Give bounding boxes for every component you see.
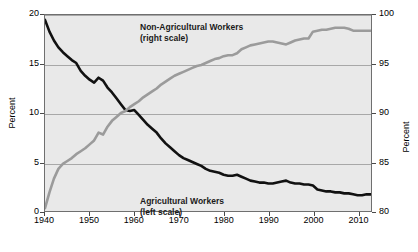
x-tick-mark bbox=[269, 212, 270, 216]
annotation-nonag-line1: Non-Agricultural Workers bbox=[140, 22, 243, 33]
annotation-ag-line1: Agricultural Workers bbox=[140, 196, 224, 207]
annotation-ag-line2: (left scale) bbox=[140, 207, 224, 218]
y-tick-label-right: 90 bbox=[379, 108, 409, 117]
annotation-non-agricultural-workers: Non-Agricultural Workers (right scale) bbox=[140, 22, 243, 44]
series-line-agricultural-workers bbox=[45, 20, 371, 195]
y-tick-label-left: 5 bbox=[9, 158, 39, 167]
y-tick-label-right: 100 bbox=[379, 9, 409, 18]
series-line-non-agricultural-workers bbox=[45, 28, 371, 208]
y-tick-label-left: 15 bbox=[9, 59, 39, 68]
y-tick-mark-right bbox=[372, 64, 376, 65]
y-tick-mark-right bbox=[372, 14, 376, 15]
y-tick-mark-right bbox=[372, 163, 376, 164]
y-tick-label-right: 80 bbox=[379, 207, 409, 216]
x-tick-mark bbox=[44, 212, 45, 216]
x-tick-label: 2010 bbox=[339, 216, 379, 225]
chart-container: Percent Percent 051015208085909510019401… bbox=[0, 0, 418, 252]
annotation-nonag-line2: (right scale) bbox=[140, 33, 243, 44]
x-tick-mark bbox=[359, 212, 360, 216]
y-tick-label-left: 10 bbox=[9, 108, 39, 117]
y-tick-label-left: 20 bbox=[9, 9, 39, 18]
y-tick-label-right: 85 bbox=[379, 158, 409, 167]
y-tick-mark-right bbox=[372, 113, 376, 114]
series-lines bbox=[45, 15, 371, 211]
x-tick-mark bbox=[134, 212, 135, 216]
x-tick-label: 1940 bbox=[24, 216, 64, 225]
x-tick-label: 1990 bbox=[249, 216, 289, 225]
x-tick-mark bbox=[224, 212, 225, 216]
y-tick-mark-left bbox=[40, 64, 44, 65]
annotation-agricultural-workers: Agricultural Workers (left scale) bbox=[140, 196, 224, 218]
y-tick-mark-right bbox=[372, 212, 376, 213]
x-tick-label: 2000 bbox=[294, 216, 334, 225]
x-tick-label: 1950 bbox=[69, 216, 109, 225]
x-tick-mark bbox=[89, 212, 90, 216]
y-tick-mark-left bbox=[40, 14, 44, 15]
x-tick-mark bbox=[314, 212, 315, 216]
y-tick-label-right: 95 bbox=[379, 59, 409, 68]
y-tick-mark-left bbox=[40, 113, 44, 114]
y-tick-mark-left bbox=[40, 163, 44, 164]
